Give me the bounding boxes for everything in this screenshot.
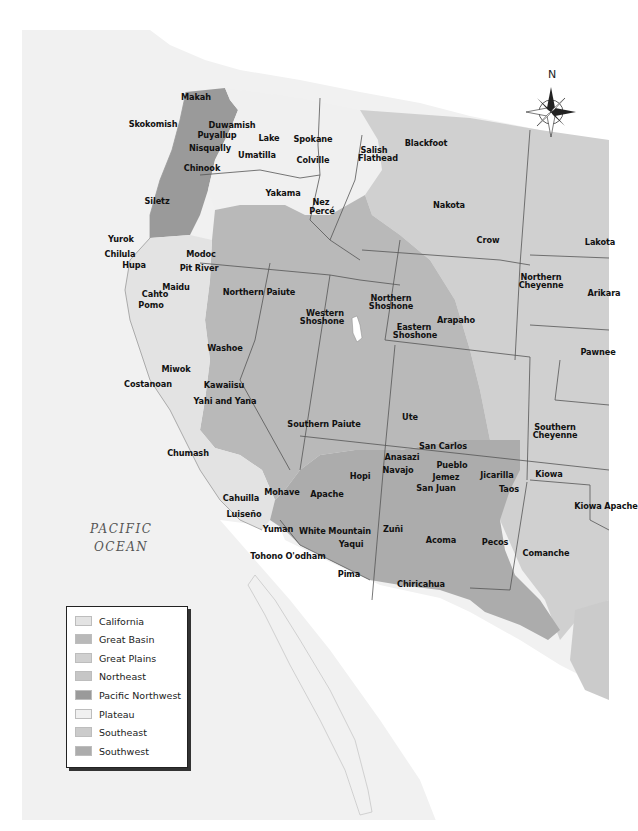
legend-item: Pacific Northwest [75,689,181,701]
legend-item: Southeast [75,726,147,738]
ocean-label-line1: PACIFIC [90,520,152,538]
tribe-label: Apache [310,490,343,499]
legend-label: Northeast [99,671,146,682]
tribe-label: Duwamish [209,121,256,130]
tribe-label: Modoc [186,250,216,259]
tribe-label: Chumash [167,449,209,458]
tribe-label: Cahto [142,290,168,299]
tribe-label: Puyallup [197,131,236,140]
ocean-label-line2: OCEAN [90,538,152,556]
tribe-label: Lake [258,134,279,143]
tribe-label: Acoma [426,536,456,545]
tribe-label: Crow [477,236,500,245]
tribe-label: Jicarilla [480,471,513,480]
tribe-label: Lakota [585,238,615,247]
tribe-label: Miwok [161,365,190,374]
tribe-label: Navajo [382,466,413,475]
tribe-label: Tohono O'odham [250,552,325,561]
tribe-label: Flathead [358,154,398,163]
legend-item: Northeast [75,670,146,682]
tribe-label: Zuñi [383,525,403,534]
tribe-label: Comanche [523,549,570,558]
tribe-label: Kiowa [535,470,562,479]
tribe-label: Arapaho [437,316,475,325]
legend-label: Southeast [99,727,147,738]
tribe-label: Cheyenne [519,281,564,290]
tribe-label: Kiowa Apache [574,502,637,511]
tribe-label: Chinook [184,164,220,173]
tribe-label: Mohave [264,488,299,497]
tribe-label: Skokomish [129,120,178,129]
tribe-label: Yaqui [339,540,364,549]
tribe-label: Shoshone [369,302,413,311]
tribe-label: Anasazi [385,453,420,462]
tribe-label: Jemez [433,473,460,482]
tribe-label: Southern Paiute [287,420,360,429]
ocean-label: PACIFIC OCEAN [90,520,152,556]
tribe-label: Shoshone [393,331,437,340]
legend-label: Great Basin [99,634,154,645]
compass-north-label: N [548,68,556,81]
tribe-label: Hupa [122,261,146,270]
tribe-label: Hopi [350,472,371,481]
tribe-label: Spokane [293,135,332,144]
tribe-label: Pima [338,570,360,579]
tribe-label: Taos [499,485,519,494]
tribe-label: Yahi and Yana [193,397,256,406]
legend-label: Pacific Northwest [99,690,181,701]
tribe-label: Blackfoot [405,139,448,148]
tribe-label: Pawnee [580,348,615,357]
tribe-label: Colville [297,156,330,165]
tribe-label: Siletz [144,197,169,206]
legend-swatch [75,727,92,737]
legend-label: Plateau [99,709,135,720]
tribe-label: Nisqually [189,144,231,153]
tribe-label: Cheyenne [533,431,578,440]
tribe-label: Costanoan [124,380,172,389]
tribe-label: Chilula [105,250,136,259]
legend-swatch [75,746,92,756]
tribe-label: San Carlos [419,442,467,451]
tribe-label: Yurok [108,235,134,244]
tribe-label: Nakota [433,201,465,210]
tribe-label: Pueblo [436,461,467,470]
legend-swatch [75,616,92,626]
legend-swatch [75,690,92,700]
tribe-label: Umatilla [238,151,276,160]
tribe-label: Yuman [263,525,294,534]
tribe-label: Shoshone [300,317,344,326]
tribe-label: Northern Paiute [223,288,295,297]
legend-label: Southwest [99,746,149,757]
legend-swatch [75,653,92,663]
tribe-label: Yakama [265,189,300,198]
tribe-label: Ute [402,413,418,422]
tribe-label: Chiricahua [397,580,445,589]
tribe-label: Kawaiisu [204,381,244,390]
tribe-label: Arikara [587,289,620,298]
tribe-label: Luiseño [226,510,261,519]
tribe-label: Pomo [138,301,163,310]
tribe-label: Percé [309,207,335,216]
tribe-label: Cahuilla [223,494,259,503]
tribe-label: Washoe [207,344,243,353]
legend-item: Southwest [75,745,149,757]
legend-item: California [75,615,144,627]
legend-item: Great Basin [75,633,154,645]
legend: California Great Basin Great Plains Nort… [66,606,188,768]
legend-swatch [75,709,92,719]
tribe-label: Pecos [482,538,508,547]
tribe-label: Makah [181,93,211,102]
tribe-label: White Mountain [299,527,371,536]
tribe-label: San Juan [416,484,456,493]
legend-item: Great Plains [75,652,156,664]
legend-item: Plateau [75,708,135,720]
tribe-label: Pit River [180,264,219,273]
legend-swatch [75,671,92,681]
legend-swatch [75,634,92,644]
legend-label: California [99,616,144,627]
legend-label: Great Plains [99,653,156,664]
